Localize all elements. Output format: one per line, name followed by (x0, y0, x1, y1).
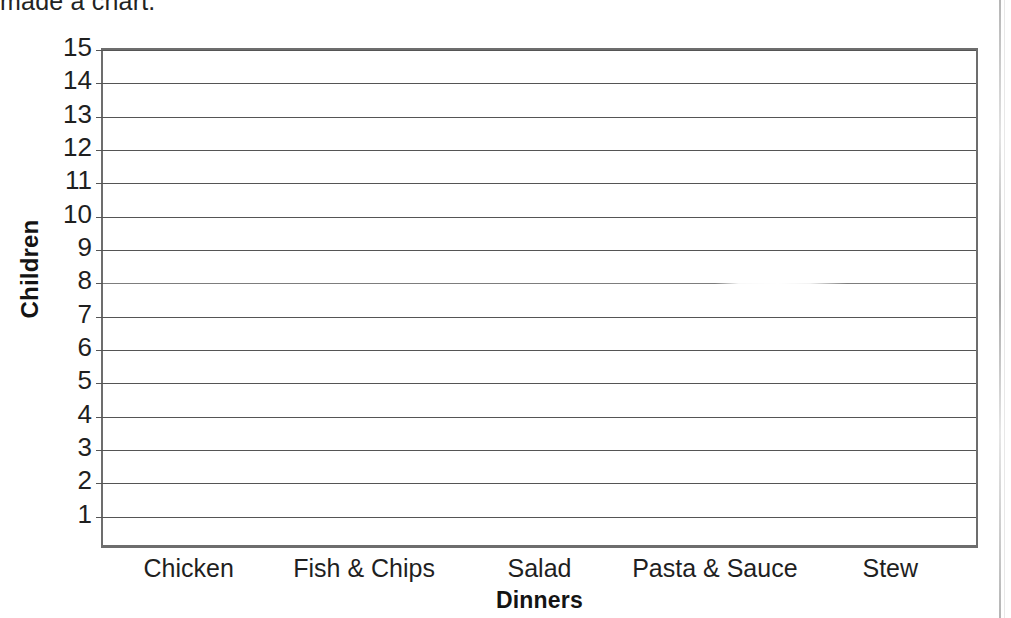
x-axis-category-label: Stew (803, 552, 978, 584)
y-axis-tick-mark (96, 517, 103, 518)
y-axis-tick-label: 15 (46, 34, 92, 60)
plot-area (101, 48, 978, 548)
y-axis-tick-label: 12 (46, 134, 92, 160)
y-axis-tick-mark (96, 50, 103, 51)
gridline (103, 183, 976, 184)
page-edge-seam-secondary (1004, 0, 1005, 618)
gridline (103, 283, 976, 284)
x-axis-category-label: Fish & Chips (276, 552, 451, 584)
gridline (103, 483, 976, 484)
gridline (103, 517, 976, 518)
y-axis-tick-mark (96, 350, 103, 351)
y-axis-tick-mark (96, 383, 103, 384)
gridline (103, 150, 976, 151)
gridline (103, 383, 976, 384)
y-axis-tick-mark (96, 283, 103, 284)
bar-chart-blank: 151413121110987654321 Children ChickenFi… (0, 0, 1011, 618)
y-axis-tick-label: 13 (46, 101, 92, 127)
x-axis-category-label: Salad (452, 552, 627, 584)
y-axis-tick-label: 2 (46, 467, 92, 493)
gridline (103, 450, 976, 451)
y-axis-title: Children (16, 204, 44, 334)
y-axis-tick-label: 11 (46, 167, 92, 193)
gridline (103, 417, 976, 418)
x-axis-category-label: Chicken (101, 552, 276, 584)
x-axis-title: Dinners (101, 586, 978, 614)
gridline (103, 217, 976, 218)
gridline (103, 250, 976, 251)
gridline (103, 317, 976, 318)
y-axis-tick-mark (96, 483, 103, 484)
x-axis-tick-labels: ChickenFish & ChipsSaladPasta & SauceSte… (101, 552, 978, 586)
y-axis-tick-label: 5 (46, 367, 92, 393)
y-axis-tick-label: 1 (46, 501, 92, 527)
y-axis-tick-mark (96, 317, 103, 318)
y-axis-tick-mark (96, 217, 103, 218)
y-axis-tick-label: 3 (46, 434, 92, 460)
y-axis-tick-mark (96, 117, 103, 118)
page-edge-seam (999, 0, 1001, 618)
x-axis-category-label: Pasta & Sauce (627, 552, 802, 584)
y-axis-tick-label: 6 (46, 334, 92, 360)
y-axis-tick-mark (96, 183, 103, 184)
y-axis-tick-label: 8 (46, 267, 92, 293)
y-axis-tick-mark (96, 150, 103, 151)
y-axis-tick-label: 7 (46, 301, 92, 327)
y-axis-tick-label: 9 (46, 234, 92, 260)
y-axis-tick-mark (96, 417, 103, 418)
gridline (103, 350, 976, 351)
y-axis-tick-label: 14 (46, 67, 92, 93)
gridline (103, 117, 976, 118)
y-axis-tick-mark (96, 83, 103, 84)
scanned-worksheet-page: made a chart. 151413121110987654321 Chil… (0, 0, 1011, 618)
y-axis-tick-label: 4 (46, 401, 92, 427)
gridline (103, 83, 976, 84)
y-axis-tick-mark (96, 450, 103, 451)
y-axis-tick-label: 10 (46, 201, 92, 227)
y-axis-tick-mark (96, 250, 103, 251)
y-axis-tick-labels: 151413121110987654321 (40, 48, 92, 548)
gridline (103, 50, 976, 51)
